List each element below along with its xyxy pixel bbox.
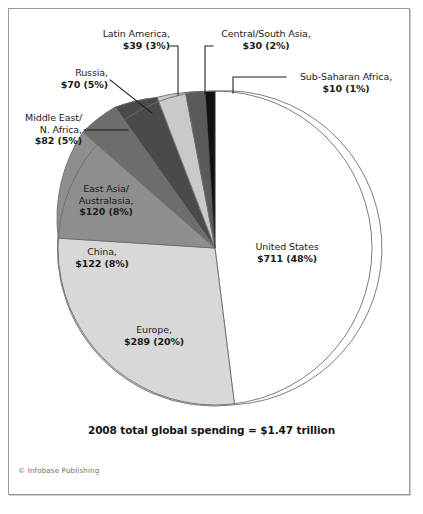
- pie-label-sub-saharan-africa: Sub-Saharan Africa, $10 (1%): [286, 71, 406, 94]
- pie-label-china-name: China,: [59, 246, 145, 258]
- pie-label-middle-east-n-africa: Middle East/ N. Africa, $82 (5%): [2, 112, 82, 147]
- pie-label-middle-east-n-africa-name-2: N. Africa,: [2, 124, 82, 136]
- pie-label-europe-value: $289 (20%): [108, 336, 200, 348]
- leader-line-sub-saharan-africa: [233, 77, 286, 93]
- leader-line-latin-america: [170, 46, 178, 95]
- pie-label-europe-name: Europe,: [108, 324, 200, 336]
- pie-label-china: China, $122 (8%): [59, 246, 145, 269]
- pie-label-sub-saharan-africa-name: Sub-Saharan Africa,: [286, 71, 406, 83]
- pie-label-united-states-value: $711 (48%): [232, 253, 342, 265]
- pie-label-latin-america: Latin America, $39 (3%): [48, 28, 170, 51]
- pie-label-middle-east-n-africa-name-1: Middle East/: [2, 112, 82, 124]
- pie-label-east-asia-australasia-name-2: Australasia,: [62, 195, 150, 207]
- pie-label-sub-saharan-africa-value: $10 (1%): [286, 83, 406, 95]
- pie-label-europe: Europe, $289 (20%): [108, 324, 200, 347]
- pie-label-china-value: $122 (8%): [59, 258, 145, 270]
- pie-label-latin-america-name: Latin America,: [48, 28, 170, 40]
- pie-label-central-south-asia-value: $30 (2%): [206, 40, 326, 52]
- pie-label-east-asia-australasia: East Asia/ Australasia, $120 (8%): [62, 183, 150, 218]
- pie-label-russia: Russia, $70 (5%): [10, 67, 108, 90]
- pie-label-central-south-asia: Central/South Asia, $30 (2%): [206, 28, 326, 51]
- pie-label-east-asia-australasia-value: $120 (8%): [62, 206, 150, 218]
- pie-label-russia-name: Russia,: [10, 67, 108, 79]
- pie-label-russia-value: $70 (5%): [10, 79, 108, 91]
- leader-line-central-south-asia: [205, 46, 213, 94]
- pie-label-east-asia-australasia-name-1: East Asia/: [62, 183, 150, 195]
- copyright-credit: © Infobase Publishing: [18, 466, 99, 475]
- pie-label-united-states: United States $711 (48%): [232, 241, 342, 264]
- pie-label-middle-east-n-africa-value: $82 (5%): [2, 135, 82, 147]
- pie-label-latin-america-value: $39 (3%): [48, 40, 170, 52]
- chart-caption: 2008 total global spending = $1.47 trill…: [0, 424, 423, 436]
- pie-label-central-south-asia-name: Central/South Asia,: [206, 28, 326, 40]
- pie-label-united-states-name: United States: [232, 241, 342, 253]
